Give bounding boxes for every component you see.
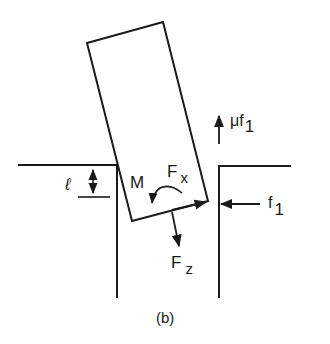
depth-dimension (78, 170, 110, 197)
figure-caption: (b) (156, 309, 174, 326)
right-hole-wall (219, 166, 291, 298)
friction-label: μf1 (230, 112, 254, 136)
force-z-label: Fz (171, 253, 193, 277)
moment-label: M (130, 173, 144, 192)
force-z-arrow-icon (172, 212, 179, 246)
peg-in-hole-diagram: ℓ M Fx Fz μf1 f1 (b) (0, 0, 330, 344)
tilted-peg (87, 22, 208, 221)
depth-label: ℓ (64, 175, 71, 194)
normal-force-label: f1 (268, 194, 284, 219)
